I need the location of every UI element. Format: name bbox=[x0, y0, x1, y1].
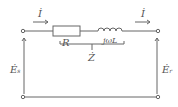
circuit-diagram: İ İ R jωL Ż Ės Ėr bbox=[0, 0, 178, 107]
inductor-label: jωL bbox=[103, 36, 117, 46]
impedance-label: Ż bbox=[88, 53, 95, 63]
resistor-label: R bbox=[62, 38, 70, 48]
terminal-bottom-left bbox=[21, 95, 24, 98]
current-label-left: İ bbox=[38, 9, 42, 19]
terminal-top-left bbox=[21, 29, 24, 32]
source-sending-label: Ės bbox=[10, 65, 20, 76]
terminal-top-right bbox=[156, 29, 159, 32]
terminal-bottom-right bbox=[156, 95, 159, 98]
inductor bbox=[98, 28, 122, 31]
source-receiving-label: Ėr bbox=[162, 65, 172, 76]
resistor bbox=[53, 26, 80, 36]
current-label-right: İ bbox=[141, 9, 145, 19]
